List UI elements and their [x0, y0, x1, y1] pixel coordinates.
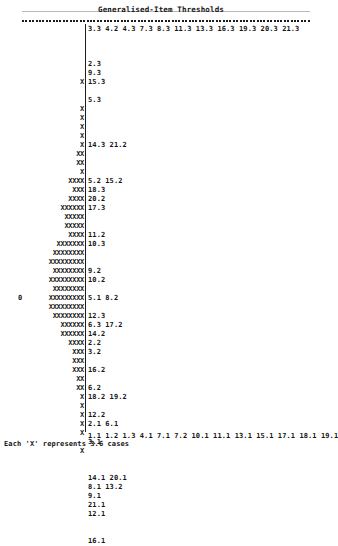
histogram-row: X: [0, 114, 322, 123]
threshold-label: 9.3: [88, 69, 101, 78]
x-symbol-bar: XXXXX: [64, 222, 84, 231]
histogram-rows: 2.39.3X15.35.3XXXXX14.3 21.2XXXXXXXXX5.2…: [0, 24, 322, 546]
threshold-label: 9.2: [88, 267, 101, 276]
histogram-row: [0, 87, 322, 96]
x-symbol-bar: XXXXXXXXX: [49, 303, 84, 312]
x-symbol-bar: XXX: [72, 357, 84, 366]
x-symbol-bar: XXXXXXXXX: [49, 276, 84, 285]
x-symbol-bar: X: [80, 429, 84, 438]
histogram-row: XXXXXXXX: [0, 249, 322, 258]
threshold-label: 21.1: [88, 501, 105, 510]
histogram-row: [0, 465, 322, 474]
threshold-label: 6.2: [88, 384, 101, 393]
x-symbol-bar: XX: [76, 384, 84, 393]
histogram-row: 9.1: [0, 492, 322, 501]
histogram-row: XXXX2.2: [0, 339, 322, 348]
histogram-row: XX: [0, 159, 322, 168]
x-symbol-bar: XXXXXXX: [57, 240, 84, 249]
x-symbol-bar: XXX: [72, 186, 84, 195]
histogram-row: X: [0, 168, 322, 177]
x-symbol-bar: XXXXXXXX: [53, 285, 84, 294]
histogram-row: XXXXXXXXX: [0, 303, 322, 312]
x-symbol-bar: XXXXXXXX: [53, 249, 84, 258]
x-symbol-bar: X: [80, 393, 84, 402]
x-symbol-bar: XXXXXXXX: [53, 267, 84, 276]
threshold-label: 5.1 8.2: [88, 294, 118, 303]
threshold-label: 14.3 21.2: [88, 141, 127, 150]
x-symbol-bar: X: [80, 123, 84, 132]
histogram-row: [0, 51, 322, 60]
histogram-row: [0, 528, 322, 537]
x-symbol-bar: XX: [76, 375, 84, 384]
histogram-row: [0, 24, 322, 33]
threshold-label: 18.3: [88, 186, 105, 195]
x-symbol-bar: XXXXXXXXX: [49, 294, 84, 303]
threshold-label: 2.2: [88, 339, 101, 348]
footer-legend: Each 'X' represents 3.6 cases: [4, 440, 129, 448]
threshold-label: 16.1: [88, 537, 105, 546]
histogram-row: XXXX20.2: [0, 195, 322, 204]
x-symbol-bar: XXXXXX: [61, 321, 85, 330]
threshold-label: 2.3: [88, 60, 101, 69]
histogram-row: X2.1 6.1: [0, 420, 322, 429]
histogram-row: XXXX5.2 15.2: [0, 177, 322, 186]
threshold-label: 12.3: [88, 312, 105, 321]
dotted-divider: [22, 20, 311, 22]
histogram-row: XXX18.3: [0, 186, 322, 195]
histogram-row: XXX3.2: [0, 348, 322, 357]
x-symbol-bar: XXXX: [68, 339, 84, 348]
histogram-row: XXXXXXXX12.3: [0, 312, 322, 321]
x-symbol-bar: X: [80, 132, 84, 141]
histogram-row: XXXXXXX10.3: [0, 240, 322, 249]
histogram-row: XXXX11.2: [0, 231, 322, 240]
histogram-row: XX: [0, 150, 322, 159]
histogram-row: 21.1: [0, 501, 322, 510]
histogram-row: X14.3 21.2: [0, 141, 322, 150]
threshold-label: 16.2: [88, 366, 105, 375]
histogram-row: 8.1 13.2: [0, 483, 322, 492]
histogram-row: XXX16.2: [0, 366, 322, 375]
histogram-row: XXXXXX14.2: [0, 330, 322, 339]
histogram-row: X: [0, 123, 322, 132]
histogram-row: X: [0, 105, 322, 114]
page-title: Generalised-Item Thresholds: [0, 5, 322, 14]
threshold-label: 2.1 6.1: [88, 420, 118, 429]
threshold-label: 12.1: [88, 510, 105, 519]
x-symbol-bar: XXXXXXXXX: [49, 258, 84, 267]
histogram-row: 16.1: [0, 537, 322, 546]
zero-row-marker: 0: [18, 294, 22, 303]
threshold-label: 10.3: [88, 240, 105, 249]
histogram-row: XXXXXXXX: [0, 285, 322, 294]
histogram-row: X18.2 19.2: [0, 393, 322, 402]
x-symbol-bar: XXXX: [68, 231, 84, 240]
threshold-label: 12.2: [88, 411, 105, 420]
threshold-label: 8.1 13.2: [88, 483, 123, 492]
threshold-label: 20.2: [88, 195, 105, 204]
x-symbol-bar: X: [80, 411, 84, 420]
threshold-label: 5.2 15.2: [88, 177, 123, 186]
histogram-row: XXXXX: [0, 213, 322, 222]
histogram-row: XXXXXXXX9.2: [0, 267, 322, 276]
x-symbol-bar: XXXX: [68, 195, 84, 204]
histogram-row: [0, 519, 322, 528]
histogram-row: X: [0, 402, 322, 411]
histogram-row: XX6.2: [0, 384, 322, 393]
histogram-row: [0, 456, 322, 465]
threshold-label: 5.3: [88, 96, 101, 105]
threshold-label: 9.1: [88, 492, 101, 501]
threshold-label: 6.3 17.2: [88, 321, 123, 330]
threshold-label: 14.2: [88, 330, 105, 339]
histogram-row: XXXXXX6.3 17.2: [0, 321, 322, 330]
x-symbol-bar: X: [80, 78, 84, 87]
x-symbol-bar: X: [80, 402, 84, 411]
x-symbol-bar: XX: [76, 150, 84, 159]
histogram-row: XX: [0, 375, 322, 384]
x-symbol-bar: X: [80, 105, 84, 114]
histogram-row: 5.3: [0, 96, 322, 105]
x-symbol-bar: XXX: [72, 348, 84, 357]
threshold-label: 3.2: [88, 348, 101, 357]
x-symbol-bar: X: [80, 420, 84, 429]
histogram-row: [0, 33, 322, 42]
histogram-row: [0, 42, 322, 51]
